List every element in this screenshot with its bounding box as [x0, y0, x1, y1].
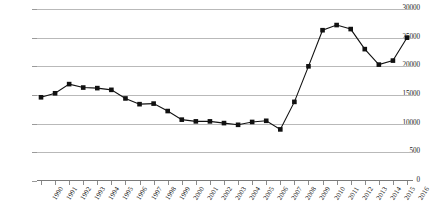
- x-axis-tick-label: 1993: [94, 186, 107, 202]
- x-axis-tick: [224, 181, 225, 185]
- x-axis-tick: [182, 181, 183, 185]
- x-axis-tick-label: 2005: [263, 186, 276, 202]
- x-axis-tick: [407, 181, 408, 185]
- x-axis-tick-label: 2000: [192, 186, 205, 202]
- x-axis-tick: [252, 181, 253, 185]
- data-point-marker: [264, 119, 269, 124]
- x-axis-tick: [41, 181, 42, 185]
- x-axis: 1990199119921993199419951996199719981999…: [37, 181, 413, 213]
- data-point-marker: [81, 85, 86, 90]
- x-axis-tick: [379, 181, 380, 185]
- data-point-marker: [137, 102, 142, 107]
- x-axis-tick-label: 2009: [319, 186, 332, 202]
- x-axis-tick: [97, 181, 98, 185]
- x-axis-tick-label: 1996: [136, 186, 149, 202]
- x-axis-tick-label: 1990: [52, 186, 65, 202]
- data-point-marker: [362, 47, 367, 52]
- x-axis-tick-label: 2001: [206, 186, 219, 202]
- data-point-marker: [222, 121, 227, 126]
- data-point-marker: [208, 119, 213, 124]
- x-axis-tick: [140, 181, 141, 185]
- data-point-marker: [292, 100, 297, 105]
- data-point-marker: [165, 109, 170, 114]
- x-axis-tick: [266, 181, 267, 185]
- x-axis-tick-label: 2002: [221, 186, 234, 202]
- data-point-marker: [53, 91, 58, 96]
- x-axis-tick: [83, 181, 84, 185]
- data-point-marker: [39, 95, 44, 100]
- data-point-marker: [151, 101, 156, 106]
- x-axis-tick-label: 2013: [375, 186, 388, 202]
- x-axis-tick: [69, 181, 70, 185]
- x-axis-tick-label: 2016: [418, 186, 431, 202]
- x-axis-tick: [351, 181, 352, 185]
- x-axis-tick: [365, 181, 366, 185]
- x-axis-tick: [323, 181, 324, 185]
- data-point-marker: [306, 64, 311, 69]
- data-point-marker: [109, 88, 114, 93]
- data-series-line: [37, 9, 413, 181]
- data-point-marker: [95, 86, 100, 91]
- data-point-marker: [278, 127, 283, 132]
- x-axis-tick: [55, 181, 56, 185]
- x-axis-tick: [125, 181, 126, 185]
- x-axis-tick-label: 2011: [347, 186, 360, 201]
- data-point-marker: [348, 27, 353, 32]
- x-axis-tick-label: 1994: [108, 186, 121, 202]
- x-axis-tick-label: 1997: [150, 186, 163, 202]
- data-point-marker: [179, 117, 184, 122]
- x-axis-tick-label: 2012: [361, 186, 374, 202]
- data-point-marker: [405, 35, 410, 40]
- x-axis-tick: [280, 181, 281, 185]
- x-axis-tick-label: 1991: [66, 186, 79, 202]
- data-point-marker: [320, 28, 325, 33]
- x-axis-tick-label: 2007: [291, 186, 304, 202]
- x-axis-tick-label: 2006: [277, 186, 290, 202]
- x-axis-tick: [393, 181, 394, 185]
- data-point-marker: [250, 120, 255, 125]
- data-point-marker: [236, 123, 241, 128]
- x-axis-tick: [308, 181, 309, 185]
- data-point-marker: [391, 58, 396, 63]
- data-point-marker: [377, 62, 382, 67]
- x-axis-tick: [154, 181, 155, 185]
- x-axis-tick: [196, 181, 197, 185]
- x-axis-tick-label: 2008: [305, 186, 318, 202]
- x-axis-tick: [111, 181, 112, 185]
- data-point-marker: [334, 23, 339, 28]
- x-axis-tick: [238, 181, 239, 185]
- x-axis-tick-label: 1995: [122, 186, 135, 202]
- x-axis-tick: [168, 181, 169, 185]
- x-axis-tick-label: 2014: [389, 186, 402, 202]
- data-point-marker: [123, 96, 128, 101]
- x-axis-tick: [210, 181, 211, 185]
- x-axis-tick-label: 2004: [249, 186, 262, 202]
- x-axis-tick: [294, 181, 295, 185]
- plot-area: [37, 9, 413, 181]
- x-axis-tick-label: 1992: [80, 186, 93, 202]
- series-line: [41, 25, 407, 129]
- data-point-marker: [194, 119, 199, 124]
- data-point-marker: [67, 82, 72, 87]
- x-axis-tick-label: 2010: [333, 186, 346, 202]
- x-axis-tick-label: 2003: [235, 186, 248, 202]
- x-axis-tick-label: 1998: [164, 186, 177, 202]
- x-axis-tick: [337, 181, 338, 185]
- x-axis-tick-label: 2015: [404, 186, 417, 202]
- x-axis-tick-label: 1999: [178, 186, 191, 202]
